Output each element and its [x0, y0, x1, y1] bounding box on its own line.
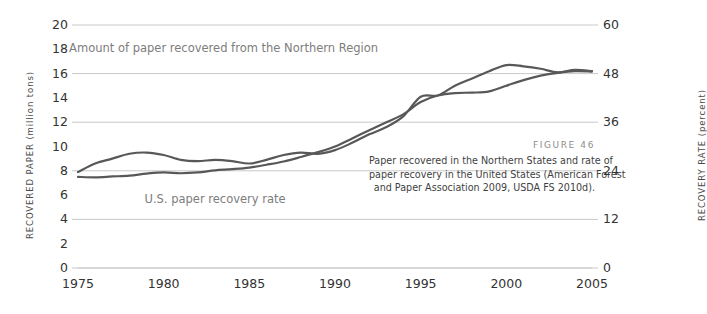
y-axis-right-title: RECOVERY RATE (percent) — [697, 65, 707, 245]
y-axis-left-tick-label: 2 — [34, 236, 68, 251]
x-axis-tick-label: 2005 — [562, 276, 622, 291]
x-axis-tick-label: 1990 — [305, 276, 365, 291]
x-axis-tick-label: 2000 — [476, 276, 536, 291]
y-axis-left-tick-label: 10 — [34, 139, 68, 154]
y-axis-left-tick-label: 20 — [34, 17, 68, 32]
y-axis-left-tick-label: 16 — [34, 66, 68, 81]
y-axis-right-tick-label: 24 — [603, 163, 637, 178]
y-axis-left-tick-label: 0 — [34, 260, 68, 275]
caption-line: and Paper Association 2009, USDA FS 2010… — [369, 181, 595, 195]
y-axis-left-tick-label: 8 — [34, 163, 68, 178]
figure-caption-block: FIGURE 46 Paper recovered in the Norther… — [369, 140, 595, 195]
caption-line: paper recovery in the United States (Ame… — [369, 168, 595, 182]
y-axis-left-tick-label: 14 — [34, 90, 68, 105]
y-axis-right-tick-label: 0 — [603, 260, 637, 275]
y-axis-right-tick-label: 48 — [603, 66, 637, 81]
y-axis-right-tick-label: 12 — [603, 211, 637, 226]
x-axis-tick-label: 1975 — [48, 276, 108, 291]
y-axis-left-tick-label: 18 — [34, 41, 68, 56]
x-axis-tick-label: 1985 — [219, 276, 279, 291]
x-axis-tick-label: 1995 — [391, 276, 451, 291]
caption-line: Paper recovered in the Northern States a… — [369, 154, 595, 168]
series-annotation-label: U.S. paper recovery rate — [144, 192, 285, 206]
series-annotation-label: Amount of paper recovered from the North… — [69, 41, 378, 55]
y-axis-left-tick-label: 4 — [34, 211, 68, 226]
figure-number-label: FIGURE 46 — [369, 140, 595, 150]
y-axis-left-tick-label: 12 — [34, 114, 68, 129]
y-axis-right-tick-label: 36 — [603, 114, 637, 129]
x-axis-tick-label: 1980 — [134, 276, 194, 291]
y-axis-left-tick-label: 6 — [34, 187, 68, 202]
y-axis-right-tick-label: 60 — [603, 17, 637, 32]
